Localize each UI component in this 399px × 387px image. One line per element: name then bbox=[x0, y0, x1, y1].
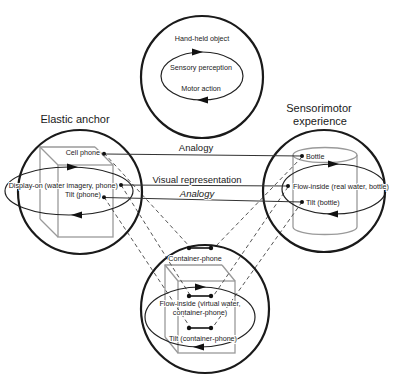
top-cycle-left-arrow-icon bbox=[197, 97, 208, 104]
tilt-bottle-dot bbox=[300, 200, 304, 204]
bottom-cycle-left-arrow-icon bbox=[193, 344, 204, 351]
sensorimotor-title-line1: Sensorimotor bbox=[286, 102, 352, 114]
bottle-cylinder-shape bbox=[293, 148, 357, 235]
tilt-dumbbell bbox=[187, 326, 213, 330]
sensorimotor-title-line2: experience bbox=[293, 115, 347, 127]
dumbbell-end-dot bbox=[209, 246, 213, 250]
dumbbell-end-dot bbox=[187, 246, 191, 250]
flow-inside-virtual-label-line2: container-phone) bbox=[173, 308, 227, 317]
display-on-label: Display-on (water imagery, phone) bbox=[9, 181, 118, 190]
sensorimotor-experience-circle bbox=[263, 130, 385, 252]
cell-phone-dot bbox=[102, 152, 106, 156]
tilt-phone-dot bbox=[102, 195, 106, 199]
dumbbell-end-dot bbox=[187, 294, 191, 298]
bottle-sides bbox=[293, 155, 357, 227]
flow-inside-real-dot bbox=[286, 184, 290, 188]
right-cycle-left-arrow-icon bbox=[327, 211, 338, 218]
analogy-top-line bbox=[104, 154, 302, 156]
phone-box-front-face bbox=[58, 165, 113, 237]
visual-representation-label: Visual representation bbox=[152, 174, 241, 185]
diagram-canvas: Hand-held object Sensory perception Moto… bbox=[0, 0, 399, 387]
sensory-perception-label: Sensory perception bbox=[170, 63, 232, 72]
bottle-dot bbox=[300, 154, 304, 158]
display-on-dot bbox=[119, 183, 123, 187]
tilt-bottle-label: Tilt (bottle) bbox=[306, 198, 340, 207]
flow-inside-real-label: Flow-inside (real water, bottle) bbox=[293, 182, 389, 191]
flow-inside-dumbbell bbox=[187, 294, 213, 298]
dashed-link-flowreal-flowvirtual bbox=[214, 187, 288, 295]
bottle-label: Bottle bbox=[306, 152, 324, 161]
diagram-figure: Hand-held object Sensory perception Moto… bbox=[0, 0, 399, 387]
container-phone-label: Container-phone bbox=[168, 254, 222, 263]
bottom-cycle-right-arrow-icon bbox=[195, 284, 206, 291]
tilt-container-phone-label: Tilt (container-phone) bbox=[169, 334, 237, 343]
motor-action-label: Motor action bbox=[181, 84, 221, 93]
cell-phone-label: Cell phone bbox=[66, 148, 100, 157]
dumbbell-end-dot bbox=[209, 294, 213, 298]
bottle-bottom-arc bbox=[293, 227, 357, 235]
dumbbell-end-dot bbox=[187, 326, 191, 330]
dashed-link-displayon-flowinside bbox=[121, 185, 190, 295]
tilt-phone-label: Tilt (phone) bbox=[65, 190, 101, 199]
flow-inside-virtual-label-line1: Flow-inside (virtual water, bbox=[159, 299, 240, 308]
hand-held-object-label: Hand-held object bbox=[175, 34, 229, 43]
analogy-bottom-label: Analogy bbox=[179, 188, 216, 199]
analogy-top-label: Analogy bbox=[179, 142, 214, 153]
elastic-anchor-title: Elastic anchor bbox=[40, 113, 109, 125]
left-cycle-left-arrow-icon bbox=[71, 212, 82, 219]
dumbbell-end-dot bbox=[209, 326, 213, 330]
top-cycle-right-arrow-icon bbox=[192, 49, 203, 56]
dashed-link-cellphone-container bbox=[104, 153, 190, 247]
